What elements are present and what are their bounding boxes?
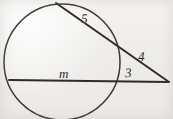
geometry-figure: 5 4 3 m xyxy=(0,0,173,119)
segment-label-m: m xyxy=(59,67,69,80)
lower-secant-line xyxy=(9,80,169,82)
upper-secant-line xyxy=(56,3,169,82)
segment-label-5: 5 xyxy=(81,12,88,25)
segment-label-3: 3 xyxy=(125,66,132,79)
segment-label-4: 4 xyxy=(138,50,145,63)
circle-shape xyxy=(4,4,120,119)
